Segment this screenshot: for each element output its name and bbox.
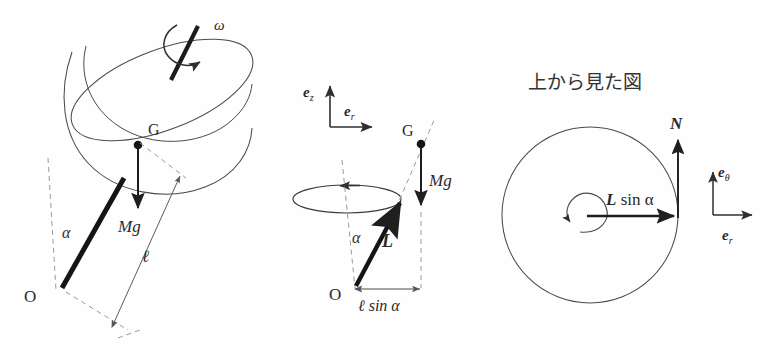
- center-of-mass-dot-mid: [417, 140, 426, 149]
- radius-label-right: L sin α: [605, 190, 654, 209]
- alpha-label: α: [62, 224, 71, 241]
- figure-canvas: ω G Mg α ℓ O ez er: [0, 0, 771, 344]
- normal-force-label: N: [669, 114, 683, 133]
- length-label: ℓ: [142, 247, 149, 266]
- center-of-mass-dot: [134, 141, 143, 150]
- center-of-mass-label: G: [148, 121, 160, 138]
- radius-label-mid: ℓ sin α: [358, 297, 400, 314]
- alpha-label-mid: α: [352, 229, 361, 246]
- background: [0, 0, 771, 344]
- pivot-label-mid: O: [329, 285, 341, 304]
- physics-diagram: ω G Mg α ℓ O ez er: [0, 0, 771, 344]
- pivot-label-left: O: [24, 287, 36, 306]
- weight-label: Mg: [117, 217, 141, 236]
- rod-L-label: L: [381, 231, 393, 251]
- center-of-mass-label-mid: G: [402, 122, 414, 139]
- top-view-caption: 上から見た図: [528, 71, 642, 93]
- omega-label: ω: [214, 17, 225, 33]
- weight-label-mid: Mg: [428, 171, 452, 190]
